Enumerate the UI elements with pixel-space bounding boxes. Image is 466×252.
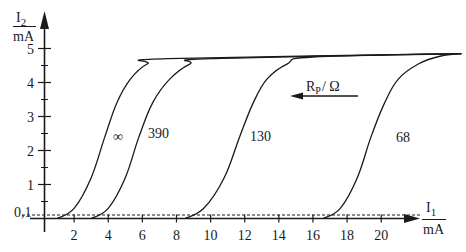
legend-rp-label: RP/ Ω	[306, 79, 340, 96]
x-tick-label: 8	[173, 228, 180, 243]
x-tick-label: 6	[139, 228, 146, 243]
y-tick-label: 1	[27, 178, 34, 193]
reference-line-label: 0,1	[14, 205, 32, 220]
y-tick-label: 3	[27, 110, 34, 125]
transfer-characteristic-chart: 246810121416182012345 I2 mA I1 mA 0,1 RP…	[0, 0, 466, 252]
x-tick-label: 14	[272, 228, 286, 243]
legend-arrow-left-icon	[290, 93, 303, 100]
x-tick-label: 18	[340, 228, 354, 243]
curve-label-68: 68	[396, 130, 410, 145]
x-tick-label: 2	[71, 228, 78, 243]
curve-label-390: 390	[148, 126, 169, 141]
y-tick-label: 4	[27, 76, 34, 91]
x-tick-label: 10	[204, 228, 218, 243]
curve-68	[323, 54, 461, 219]
y-axis-arrow-icon	[40, 11, 49, 29]
y-axis-unit: mA	[13, 29, 35, 44]
x-tick-label: 20	[374, 228, 388, 243]
x-tick-label: 16	[306, 228, 320, 243]
y-axis-label: I2	[16, 10, 26, 28]
curve-label-130: 130	[250, 129, 271, 144]
x-axis-unit: mA	[423, 222, 445, 237]
curve-label-infinity: ∞	[113, 129, 123, 144]
x-tick-label: 12	[238, 228, 252, 243]
x-axis-label: I1	[426, 200, 436, 218]
x-tick-label: 4	[105, 228, 112, 243]
y-tick-label: 2	[27, 144, 34, 159]
